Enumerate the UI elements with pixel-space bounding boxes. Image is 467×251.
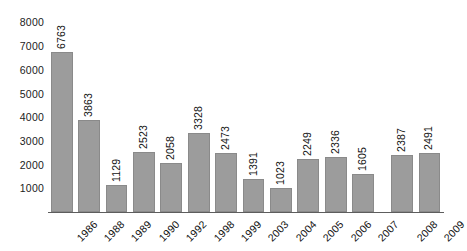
bar: [188, 133, 210, 212]
bar: [51, 52, 73, 212]
bar: [270, 188, 292, 212]
plot-area: 6763198638631988112919892523199020581992…: [48, 0, 452, 251]
bar-group: 2058: [160, 163, 182, 212]
x-axis-tick-label: 1989: [128, 218, 154, 244]
x-axis-tick-label: 2003: [265, 218, 291, 244]
x-axis-tick-label: 2006: [348, 218, 374, 244]
bar-group: 3863: [78, 120, 100, 212]
y-axis-tick-label: 6000: [20, 65, 44, 75]
bar-group: 1605: [352, 174, 374, 212]
bar-group: 1023: [270, 188, 292, 212]
bar-group: 1129: [106, 185, 128, 212]
y-axis: 10002000300040005000600070008000: [0, 0, 48, 251]
bar-group: 2523: [133, 152, 155, 212]
y-axis-tick-label: 2000: [20, 160, 44, 170]
bar-value-label: 2336: [329, 130, 341, 154]
bar: [215, 153, 237, 212]
bar-value-label: 1391: [247, 152, 259, 176]
bar-value-label: 2058: [164, 136, 176, 160]
bar: [352, 174, 374, 212]
y-axis-tick-label: 8000: [20, 17, 44, 27]
bar: [391, 155, 413, 212]
bar: [106, 185, 128, 212]
y-axis-tick-label: 3000: [20, 136, 44, 146]
bar-value-label: 2491: [422, 126, 434, 150]
y-axis-tick-label: 7000: [20, 41, 44, 51]
bar: [243, 179, 265, 212]
bar-value-label: 3863: [82, 93, 94, 117]
bar: [419, 153, 441, 212]
y-axis-tick-label: 4000: [20, 112, 44, 122]
y-axis-tick-label: 1000: [20, 183, 44, 193]
bar-value-label: 1129: [110, 159, 122, 182]
bar-value-label: 2523: [137, 125, 149, 149]
bar: [325, 157, 347, 212]
bar-value-label: 6763: [55, 25, 67, 49]
x-axis-tick-label: 1990: [156, 218, 182, 244]
bar-value-label: 3328: [192, 106, 204, 130]
x-axis-tick-label: 1988: [101, 218, 127, 244]
bar: [133, 152, 155, 212]
bar-group: 2491: [419, 153, 441, 212]
x-axis-tick-label: 2009: [441, 218, 467, 244]
bar-group: 1391: [243, 179, 265, 212]
bar-value-label: 1605: [356, 147, 368, 171]
x-axis-tick-label: 2005: [320, 218, 346, 244]
bar-group: 2387: [391, 155, 413, 212]
bar-value-label: 1023: [274, 161, 286, 185]
bar-value-label: 2249: [301, 132, 313, 156]
x-axis-tick-label: 2008: [414, 218, 440, 244]
x-axis-tick-label: 1998: [211, 218, 237, 244]
x-axis-line: [48, 212, 444, 213]
y-axis-tick-label: 5000: [20, 89, 44, 99]
bar-value-label: 2473: [219, 126, 231, 150]
bar: [78, 120, 100, 212]
bar-group: 6763: [51, 52, 73, 212]
bar-group: 3328: [188, 133, 210, 212]
x-axis-tick-label: 2004: [293, 218, 319, 244]
bar: [297, 159, 319, 212]
bar-group: 2473: [215, 153, 237, 212]
x-axis-tick-label: 1992: [183, 218, 209, 244]
bar: [160, 163, 182, 212]
bar-group: 2336: [325, 157, 347, 212]
x-axis-tick-label: 2007: [375, 218, 401, 244]
bar-group: 2249: [297, 159, 319, 212]
bar-value-label: 2387: [395, 128, 407, 152]
x-axis-tick-label: 1999: [238, 218, 264, 244]
x-axis-tick-label: 1986: [74, 218, 100, 244]
